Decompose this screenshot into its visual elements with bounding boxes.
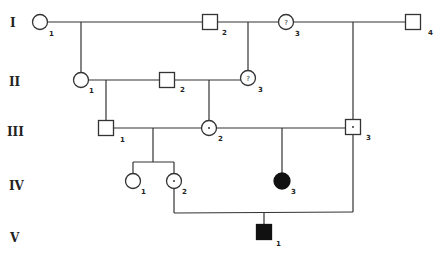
generation-label-IV: IV: [9, 179, 25, 193]
carrier-dot-icon: [208, 127, 210, 129]
carrier-dot-icon: [352, 126, 354, 128]
individual-I1: 1: [33, 15, 55, 39]
individual-I4: 4: [406, 15, 434, 38]
individual-number: 3: [291, 188, 296, 196]
individual-I2: 2: [203, 15, 228, 38]
question-mark-icon: ?: [284, 19, 288, 27]
male-symbol: [406, 15, 421, 30]
affected-female-symbol: [274, 173, 290, 189]
affected-male-symbol: [257, 225, 272, 240]
individual-II1: 1: [74, 73, 95, 96]
generation-label-V: V: [9, 231, 20, 245]
individual-IV2: 2: [167, 174, 188, 197]
individual-number: 1: [49, 30, 54, 38]
individual-II3: ? 3: [241, 71, 264, 95]
generation-label-I: I: [10, 16, 16, 30]
male-symbol: [203, 15, 218, 30]
female-symbol: [126, 174, 141, 189]
individual-number: 3: [366, 134, 371, 142]
carrier-dot-icon: [173, 180, 175, 182]
individual-number: 3: [258, 86, 263, 94]
individual-II2: 2: [160, 73, 186, 95]
female-symbol: [33, 15, 48, 30]
individual-number: 3: [295, 30, 300, 38]
individual-number: 2: [218, 135, 223, 143]
generation-label-III: III: [7, 125, 24, 139]
individual-number: 4: [428, 29, 433, 37]
generation-label-II: II: [9, 75, 21, 89]
individual-IV1: 1: [126, 174, 147, 197]
individual-number: 1: [141, 188, 146, 196]
individual-III2: 2: [202, 121, 224, 144]
union-line-IV2-III3: [174, 212, 353, 213]
male-symbol: [99, 121, 114, 136]
pedigree-chart: I II III IV V 1: [0, 0, 442, 255]
individual-I3: ? 3: [279, 15, 301, 39]
female-symbol: [74, 73, 89, 88]
individual-number: 1: [120, 136, 125, 144]
individual-III3: 3: [346, 120, 372, 143]
individual-number: 1: [89, 87, 94, 95]
individual-number: 2: [180, 86, 185, 94]
individual-IV3: 3: [274, 173, 296, 196]
individual-V1: 1: [257, 225, 282, 249]
individual-number: 2: [182, 188, 187, 196]
male-symbol: [160, 73, 175, 88]
question-mark-icon: ?: [246, 75, 250, 83]
individual-III1: 1: [99, 121, 126, 145]
individual-number: 1: [276, 240, 281, 248]
individual-number: 2: [222, 29, 227, 37]
